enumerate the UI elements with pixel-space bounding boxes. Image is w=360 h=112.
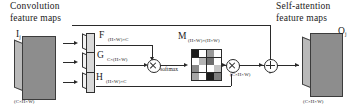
h-path-horizontal	[96, 86, 231, 87]
self-attention-feature-maps-title-line2: feature maps	[276, 14, 327, 24]
matmul-to-sum-head	[259, 63, 263, 67]
attention-map-grid	[191, 49, 222, 81]
conv-slab-h	[82, 72, 94, 91]
output-dims-label: (C×H×W)	[303, 99, 324, 104]
attention-cell	[207, 50, 214, 57]
attention-dims: (H×W)×(H×W)	[188, 38, 220, 43]
attention-cell	[199, 50, 206, 57]
branch-f-dims: (H×W)×C	[108, 37, 129, 42]
attention-cell	[214, 58, 221, 65]
arrow-to-h-head	[74, 80, 78, 84]
softmax-arrow-head	[184, 63, 188, 67]
matmul-fg-operator	[147, 59, 161, 73]
attention-cell	[199, 58, 206, 65]
input-feature-map-cube	[14, 36, 62, 98]
attention-cell	[214, 73, 221, 80]
intermediate-dims-label: (C×H×W)	[230, 72, 251, 77]
conv-slab-f	[82, 33, 94, 52]
matmul-mh-operator	[226, 59, 240, 73]
self-attention-feature-maps-title-line1: Self-attention	[276, 2, 331, 12]
conv-slab-g	[82, 52, 94, 71]
convolution-feature-maps-title-line1: Convolution	[10, 2, 60, 12]
f-path-horizontal	[96, 45, 153, 46]
attention-cell	[192, 50, 199, 57]
branch-f-symbol: F	[99, 31, 104, 41]
attention-symbol: M	[178, 32, 186, 42]
attention-cell	[199, 73, 206, 80]
convolution-feature-maps-title-line2: feature maps	[10, 14, 61, 24]
attention-cell	[192, 58, 199, 65]
elementwise-sum-operator	[264, 59, 278, 73]
arrow-to-g-head	[74, 60, 78, 64]
attention-cell	[192, 73, 199, 80]
g-path-horizontal	[96, 65, 146, 66]
attention-cell	[207, 73, 214, 80]
branch-g-symbol: G	[97, 51, 104, 61]
output-feature-map-cube	[302, 33, 348, 95]
input-symbol: Ij	[16, 30, 21, 40]
branch-g-dims: C×(H×W)	[107, 57, 128, 62]
skip-connection-horizontal	[72, 25, 271, 26]
self-attention-diagram: Convolution feature maps Self-attention …	[0, 0, 360, 112]
branch-h-dims: (H×W)×C	[106, 79, 127, 84]
input-dims-label: (C×H×W)	[14, 99, 35, 104]
output-symbol: Oj	[338, 27, 347, 37]
attention-cell	[207, 58, 214, 65]
softmax-label: softmax	[160, 67, 178, 73]
attention-cell	[199, 65, 206, 72]
branch-h-symbol: H	[96, 73, 103, 83]
attention-cell	[192, 65, 199, 72]
attention-cell	[214, 50, 221, 57]
arrow-to-f-head	[74, 41, 78, 45]
attention-cell	[207, 65, 214, 72]
sum-to-output-head	[295, 63, 299, 67]
attention-cell	[214, 65, 221, 72]
